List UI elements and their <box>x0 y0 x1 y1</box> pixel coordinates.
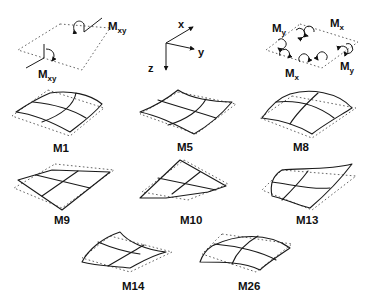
mode-label: M13 <box>296 214 318 226</box>
edge-normal-line-top <box>84 18 102 32</box>
bending-moment-legend: My Mx Mx My <box>266 17 358 82</box>
coordinate-axes-legend: x y z <box>148 18 205 74</box>
mode-label: M10 <box>180 214 202 226</box>
mode-label: M1 <box>53 142 70 154</box>
moment-arrow-icon <box>304 26 314 36</box>
reference-plate-outline <box>18 24 110 70</box>
mode-shape-m13: M13 <box>262 164 356 226</box>
mode-shape-m14: M14 <box>82 232 172 292</box>
x-axis-label: x <box>178 18 185 30</box>
moment-arrow-icon <box>278 39 286 49</box>
moment-arrow-icon <box>296 28 305 38</box>
mx-bottom-label: Mx <box>285 67 300 82</box>
plate-mode-shapes-diagram: Mxy Mxy x y z My Mx Mx My M1 <box>0 0 370 300</box>
mode-shape-m10: M10 <box>140 160 228 226</box>
mode-label: M5 <box>177 141 194 153</box>
y-axis-label: y <box>198 46 205 58</box>
mode-label: M26 <box>238 280 260 292</box>
moment-arrow-icon <box>338 46 348 56</box>
y-axis-arrow-icon <box>166 43 194 49</box>
moment-arrow-top-icon <box>74 21 84 32</box>
mode-shape-m8: M8 <box>260 91 356 153</box>
moment-arrow-icon <box>299 54 309 62</box>
mxy-bottom-label: Mxy <box>38 68 57 83</box>
z-axis-label: z <box>148 62 154 74</box>
my-right-label: My <box>340 60 355 75</box>
mode-shape-m26: M26 <box>200 234 292 292</box>
mode-shape-m5: M5 <box>140 90 236 153</box>
edge-normal-line-bottom <box>26 58 44 68</box>
mode-label: M8 <box>293 141 310 153</box>
mode-shape-m9: M9 <box>14 164 114 226</box>
moment-arrow-icon <box>317 52 327 60</box>
twisting-moment-legend: Mxy Mxy <box>18 18 127 83</box>
mode-shape-m1: M1 <box>12 90 104 154</box>
mxy-top-label: Mxy <box>108 20 127 35</box>
mode-label: M14 <box>122 280 145 292</box>
my-left-label: My <box>272 22 287 37</box>
mx-top-label: Mx <box>330 17 345 32</box>
mode-label: M9 <box>54 214 70 226</box>
